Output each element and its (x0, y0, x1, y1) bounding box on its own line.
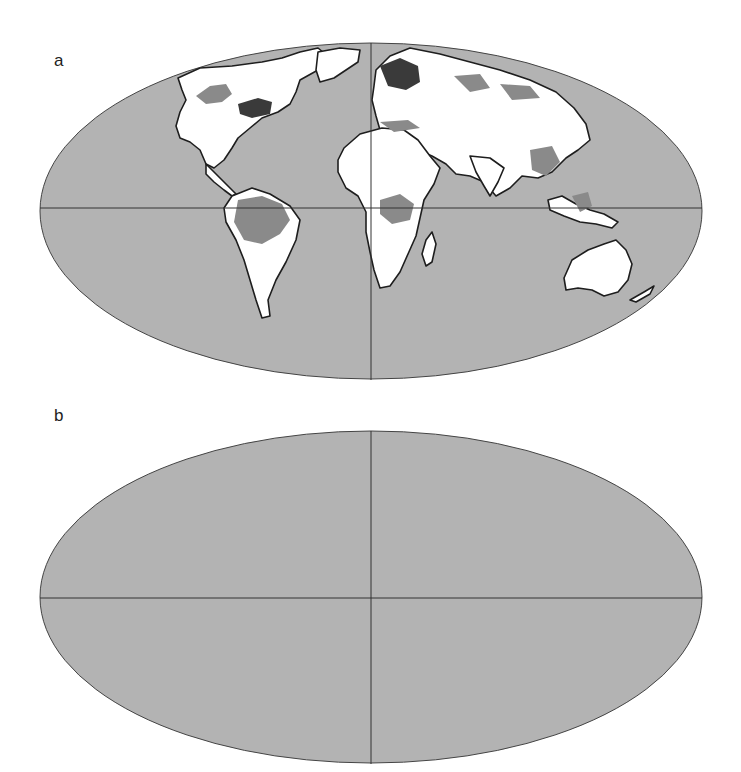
world-map-b (0, 386, 741, 772)
world-map-a (0, 0, 741, 386)
map-panel-a: a (0, 0, 741, 386)
map-panel-b: b (0, 386, 741, 772)
